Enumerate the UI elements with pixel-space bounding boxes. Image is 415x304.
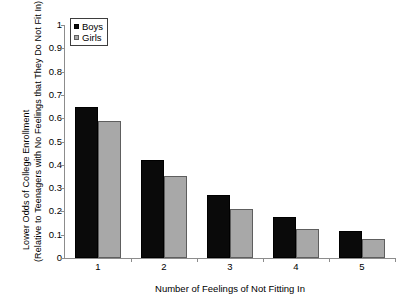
bar-boys-4 bbox=[273, 217, 296, 258]
legend-swatch-girls-icon bbox=[74, 35, 79, 40]
x-axis-tick-label: 3 bbox=[227, 261, 232, 272]
x-axis-tick-label: 1 bbox=[95, 261, 100, 272]
y-axis-tick-mark bbox=[61, 95, 65, 96]
y-axis-tick-mark bbox=[61, 188, 65, 189]
y-axis-tick-mark bbox=[61, 211, 65, 212]
legend-item-girls: Girls bbox=[74, 32, 103, 43]
bar-boys-1 bbox=[75, 107, 98, 258]
bar-girls-5 bbox=[362, 239, 385, 258]
plot-area bbox=[65, 25, 395, 258]
y-axis-title-line-1: Lower Odds of College Enrollment bbox=[21, 110, 31, 250]
x-axis-tick-label: 5 bbox=[359, 261, 364, 272]
y-axis-tick-label: 0 bbox=[36, 253, 62, 263]
x-axis-tick-labels: 12345 bbox=[65, 261, 395, 275]
bar-boys-2 bbox=[141, 160, 164, 258]
legend-label-boys: Boys bbox=[82, 22, 103, 32]
y-axis-tick-label: 0.4 bbox=[36, 160, 62, 170]
y-axis-tick-labels: 10.90.80.70.60.50.40.30.20.10 bbox=[36, 0, 62, 304]
x-axis-tick-label: 4 bbox=[293, 261, 298, 272]
y-axis-tick-mark bbox=[61, 48, 65, 49]
y-axis-tick-label: 0.5 bbox=[36, 137, 62, 147]
bar-girls-1 bbox=[98, 121, 121, 258]
y-axis-tick-label: 0.3 bbox=[36, 183, 62, 193]
x-axis-tick-mark bbox=[395, 258, 396, 262]
y-axis-tick-label: 1 bbox=[36, 20, 62, 30]
y-axis-tick-mark bbox=[61, 165, 65, 166]
legend: Boys Girls bbox=[70, 18, 108, 46]
y-axis-tick-label: 0.6 bbox=[36, 113, 62, 123]
bar-girls-2 bbox=[164, 176, 187, 258]
y-axis-tick-label: 0.8 bbox=[36, 67, 62, 77]
y-axis-tick-mark bbox=[61, 72, 65, 73]
y-axis-title: Lower Odds of College Enrollment (Relati… bbox=[0, 0, 38, 270]
y-axis-tick-label: 0.7 bbox=[36, 90, 62, 100]
chart-page: Lower Odds of College Enrollment (Relati… bbox=[0, 0, 415, 304]
legend-item-boys: Boys bbox=[74, 21, 103, 32]
y-axis-tick-mark bbox=[61, 118, 65, 119]
bar-girls-4 bbox=[296, 229, 319, 258]
bar-boys-5 bbox=[339, 231, 362, 258]
y-axis-tick-mark bbox=[61, 235, 65, 236]
bar-girls-3 bbox=[230, 209, 253, 258]
legend-label-girls: Girls bbox=[82, 33, 102, 43]
y-axis-tick-mark bbox=[61, 142, 65, 143]
y-axis-tick-label: 0.1 bbox=[36, 230, 62, 240]
x-axis-title: Number of Feelings of Not Fitting In bbox=[65, 283, 395, 294]
x-axis-tick-label: 2 bbox=[161, 261, 166, 272]
y-axis-tick-mark bbox=[61, 25, 65, 26]
bar-boys-3 bbox=[207, 195, 230, 258]
y-axis-tick-mark bbox=[61, 258, 65, 259]
legend-swatch-boys-icon bbox=[74, 24, 79, 29]
y-axis-tick-label: 0.2 bbox=[36, 206, 62, 216]
y-axis-tick-label: 0.9 bbox=[36, 43, 62, 53]
